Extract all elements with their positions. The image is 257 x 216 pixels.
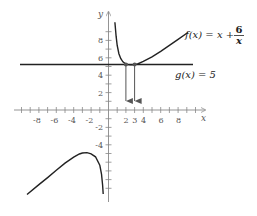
intersection-point [133,63,137,67]
x-tick-label: 4 [141,116,146,125]
y-tick-label: -4 [95,141,103,150]
y-tick-label: 2 [98,89,103,98]
y-tick-label: 6 [98,54,103,63]
y-axis-label: y [97,9,104,19]
f-label: f(x) = x + 6 x [184,24,244,46]
f-curve-upper [115,22,188,65]
x-tick-label: 2 [123,116,128,125]
y-tick-label: 8 [98,36,103,45]
x-axis-label: x [201,113,206,123]
x-tick-label: -6 [51,116,59,125]
x-tick-label: -2 [86,116,94,125]
x-tick-label: 8 [176,116,181,125]
y-tick-label: -2 [95,123,103,132]
intersection-point [124,63,128,67]
x-tick-label: 6 [158,116,163,125]
svg-text:6: 6 [236,24,243,35]
graph-canvas: -8 -6 -4 -2 2 3 4 6 8 8 6 4 2 -2 -4 x y … [0,0,257,216]
svg-text:f(x) = x +: f(x) = x + [184,29,234,40]
f-curve-lower [27,153,103,195]
x-tick-label: 3 [132,116,137,125]
y-tick-label: 4 [98,71,103,80]
x-tick-label: -8 [33,116,41,125]
svg-text:x: x [235,35,243,46]
x-tick-label: -4 [68,116,76,125]
g-label: g(x) = 5 [175,69,216,80]
